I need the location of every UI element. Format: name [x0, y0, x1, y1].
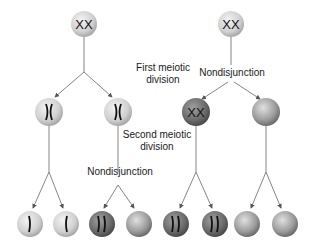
first-meiotic-division-label: First meiotic division — [128, 62, 198, 86]
nondisjunction-left-label: Nondisjunction — [84, 166, 156, 178]
left-gamete-3 — [89, 211, 115, 237]
right-gamete-2 — [202, 211, 228, 237]
right-parent-cell: XX — [218, 11, 244, 37]
left-mi-cell-2 — [104, 98, 132, 126]
right-gamete-4 — [272, 211, 298, 237]
xx-chromosomes-icon: XX — [75, 17, 93, 32]
chromosome-icon — [66, 216, 67, 232]
right-mi-cell-2 — [252, 98, 280, 126]
label-line-1: Second meiotic — [120, 129, 194, 141]
right-mi-cell-1: XX — [182, 98, 210, 126]
right-gamete-1 — [163, 211, 189, 237]
left-gamete-4 — [126, 211, 152, 237]
meiosis-diagram: XX — [0, 0, 313, 252]
right-gamete-3 — [234, 211, 260, 237]
label-line-2: division — [120, 141, 194, 153]
label-line-2: division — [128, 74, 198, 86]
xx-chromosomes-icon: XX — [222, 17, 240, 32]
left-lineage: XX — [17, 11, 152, 237]
left-parent-cell: XX — [71, 11, 97, 37]
left-gamete-2 — [53, 211, 79, 237]
xx-chromosomes-icon: XX — [187, 105, 205, 120]
chromosome-icon — [29, 216, 30, 232]
nondisjunction-right-label: Nondisjunction — [196, 67, 268, 79]
left-mi-cell-1 — [35, 98, 63, 126]
right-lineage: XX XX — [163, 11, 298, 237]
left-gamete-1 — [17, 211, 43, 237]
second-meiotic-division-label: Second meiotic division — [120, 129, 194, 153]
label-line-1: First meiotic — [128, 62, 198, 74]
